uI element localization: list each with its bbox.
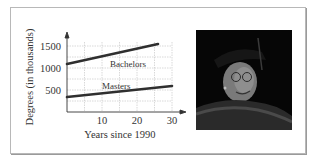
x-axis-title: Years since 1990 (84, 129, 155, 140)
axes (65, 32, 186, 114)
label-masters: Masters (102, 81, 131, 91)
x-tick-30: 30 (167, 115, 178, 126)
x-axis-arrow-icon (180, 110, 186, 114)
x-tick-10: 10 (97, 115, 108, 126)
y-tick-1500: 1500 (40, 41, 61, 52)
y-axis-title: Degrees (in thousands) (24, 28, 36, 125)
graduate-photo (196, 30, 292, 130)
label-bachelors: Bachelors (110, 59, 146, 69)
x-tick-20: 20 (132, 115, 143, 126)
y-axis-arrow-icon (65, 32, 69, 38)
y-tick-1000: 1000 (40, 63, 61, 74)
y-tick-500: 500 (45, 85, 61, 96)
